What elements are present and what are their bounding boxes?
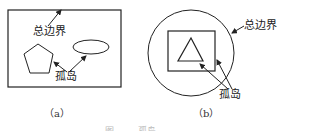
pentagon-island: [24, 44, 53, 73]
boundary-label-a: 总边界: [33, 26, 66, 38]
triangle-island: [178, 38, 203, 61]
caption-a: （a）: [44, 108, 70, 119]
boundary-arrow: [48, 10, 61, 26]
figure-caption: 图 —— 孤岛: [105, 124, 156, 131]
boundary-arrow-b: [232, 26, 244, 33]
island-arrow-triangle: [200, 64, 228, 89]
square-island: [168, 31, 215, 71]
ellipse-island: [73, 40, 109, 54]
boundary-label-b: 总边界: [244, 20, 277, 32]
island-label-b: 孤岛: [219, 89, 241, 101]
island-arrow-square: [217, 60, 232, 89]
island-label-a: 孤岛: [55, 71, 77, 83]
caption-b: （b）: [193, 108, 219, 119]
